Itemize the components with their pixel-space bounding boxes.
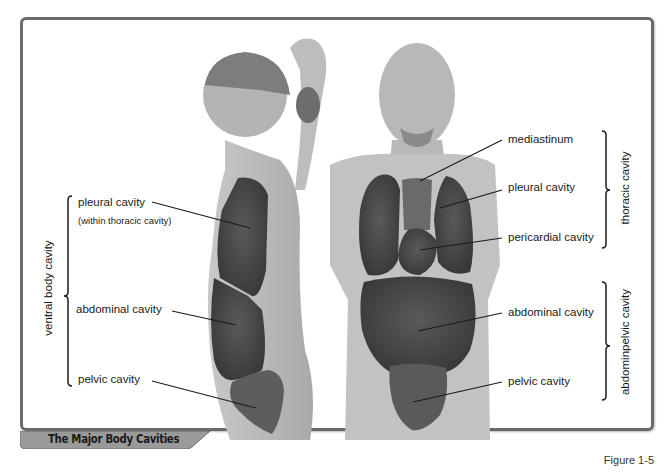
- label-pelvic-cavity-anterior: pelvic cavity: [508, 375, 570, 387]
- label-pericardial-cavity: pericardial cavity: [508, 231, 594, 243]
- ventral-brace-icon: [64, 196, 72, 386]
- figure-caption-bar: The Major Body Cavities: [20, 431, 210, 449]
- label-abdominal-cavity-lateral: abdominal cavity: [76, 303, 162, 315]
- label-within-thoracic-cavity: (within thoracic cavity): [78, 215, 171, 226]
- lateral-body-figure: [203, 39, 326, 440]
- label-pleural-cavity-anterior: pleural cavity: [508, 181, 575, 193]
- label-thoracic-cavity: thoracic cavity: [619, 138, 631, 238]
- label-abdominopelvic-cavity: abdominpelvic cavity: [619, 282, 631, 402]
- thoracic-brace-icon: [602, 131, 610, 248]
- label-pleural-cavity-lateral: pleural cavity: [78, 196, 145, 208]
- label-abdominal-cavity-anterior: abdominal cavity: [508, 306, 594, 318]
- abdominopelvic-brace-icon: [602, 282, 610, 400]
- label-ventral-body-cavity: ventral body cavity: [42, 228, 54, 348]
- label-mediastinum: mediastinum: [508, 133, 573, 145]
- figure-number: Figure 1-5: [604, 454, 654, 466]
- label-pelvic-cavity-lateral: pelvic cavity: [78, 373, 140, 385]
- figure-title: The Major Body Cavities: [48, 432, 179, 446]
